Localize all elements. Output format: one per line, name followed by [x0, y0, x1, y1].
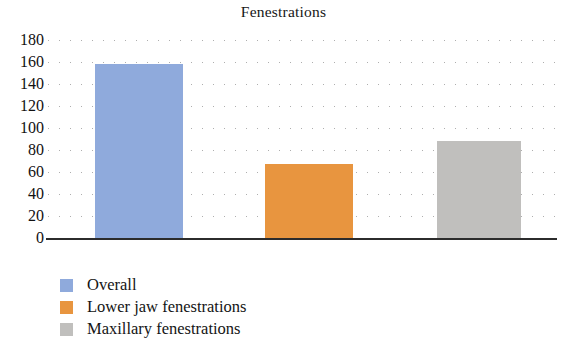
legend-item-lower-jaw-fenestrations[interactable]: Lower jaw fenestrations	[60, 296, 500, 318]
chart-legend: Overall Lower jaw fenestrations Maxillar…	[60, 274, 500, 340]
y-axis-tick-label: 40	[0, 186, 44, 202]
legend-swatch-icon	[60, 323, 73, 336]
chart-figure: Fenestrations 180 160 140 120 100 80 60 …	[0, 0, 567, 350]
legend-label: Lower jaw fenestrations	[87, 298, 246, 316]
bars-layer	[48, 40, 557, 238]
y-axis-tick-label: 0	[0, 230, 44, 246]
y-axis-tick-label: 100	[0, 120, 44, 136]
y-axis-tick-label: 160	[0, 54, 44, 70]
bar-overall[interactable]	[95, 64, 183, 238]
legend-label: Overall	[87, 276, 136, 294]
legend-label: Maxillary fenestrations	[87, 320, 241, 338]
y-axis-tick-label: 60	[0, 164, 44, 180]
y-axis-tick-label: 120	[0, 98, 44, 114]
y-axis-tick-label: 80	[0, 142, 44, 158]
legend-item-overall[interactable]: Overall	[60, 274, 500, 296]
y-axis-tick-label: 20	[0, 208, 44, 224]
bar-maxillary-fenestrations[interactable]	[437, 141, 521, 238]
x-axis-line	[46, 238, 557, 240]
legend-item-maxillary-fenestrations[interactable]: Maxillary fenestrations	[60, 318, 500, 340]
bar-lower-jaw-fenestrations[interactable]	[265, 164, 353, 238]
chart-title: Fenestrations	[0, 2, 567, 22]
y-axis-tick-labels: 180 160 140 120 100 80 60 40 20 0	[0, 40, 44, 238]
plot-area	[48, 40, 557, 238]
y-axis-tick-label: 140	[0, 76, 44, 92]
legend-swatch-icon	[60, 279, 73, 292]
y-axis-tick-label: 180	[0, 32, 44, 48]
legend-swatch-icon	[60, 301, 73, 314]
